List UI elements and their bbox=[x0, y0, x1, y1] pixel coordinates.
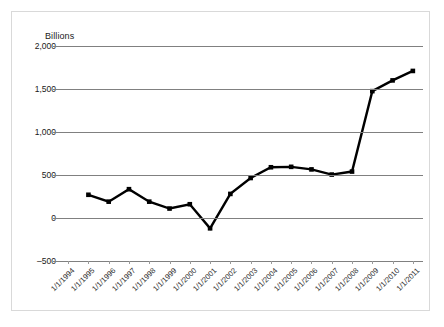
x-axis-tick-mark bbox=[170, 261, 171, 264]
x-axis-tick-mark bbox=[230, 261, 231, 264]
data-point-marker bbox=[86, 192, 91, 197]
y-axis-tick-label: 0 bbox=[12, 213, 56, 223]
gridline bbox=[58, 89, 423, 90]
x-axis-tick-mark bbox=[271, 261, 272, 264]
gridline bbox=[58, 175, 423, 176]
data-point-marker bbox=[390, 78, 395, 83]
x-axis-tick-labels: 1/1/19941/1/19951/1/19961/1/19971/1/1998… bbox=[58, 261, 423, 312]
data-point-marker bbox=[127, 187, 132, 192]
gridline bbox=[58, 132, 423, 133]
series-polyline bbox=[88, 71, 412, 228]
x-axis-tick-mark bbox=[372, 261, 373, 264]
data-point-marker bbox=[248, 176, 253, 181]
x-axis-tick-mark bbox=[149, 261, 150, 264]
gridline bbox=[58, 218, 423, 219]
data-point-marker bbox=[269, 165, 274, 170]
x-axis-tick-mark bbox=[190, 261, 191, 264]
data-point-marker bbox=[167, 206, 172, 211]
y-axis-tick-mark bbox=[53, 218, 58, 219]
x-axis-tick-mark bbox=[109, 261, 110, 264]
data-point-marker bbox=[309, 167, 314, 172]
x-axis-tick-mark bbox=[393, 261, 394, 264]
data-point-marker bbox=[350, 169, 355, 174]
y-axis-tick-mark bbox=[53, 46, 58, 47]
y-axis-tick-mark bbox=[53, 89, 58, 90]
x-axis-tick-mark bbox=[413, 261, 414, 264]
gridline bbox=[58, 46, 423, 47]
x-axis-tick-mark bbox=[129, 261, 130, 264]
data-point-marker bbox=[289, 165, 294, 170]
y-axis-tick-mark bbox=[53, 175, 58, 176]
y-axis-tick-label: 2,000 bbox=[12, 41, 56, 51]
y-axis-tick-label: 500 bbox=[12, 170, 56, 180]
x-axis-tick-mark bbox=[68, 261, 69, 264]
chart-canvas: Billions 2,0001,5001,0005000–500 1/1/199… bbox=[12, 12, 431, 312]
y-axis-tick-label: 1,000 bbox=[12, 127, 56, 137]
y-axis-tick-labels: 2,0001,5001,0005000–500 bbox=[12, 12, 56, 312]
data-point-marker bbox=[188, 202, 193, 207]
data-series-line bbox=[58, 46, 423, 261]
plot-area bbox=[58, 46, 423, 261]
data-point-marker bbox=[106, 199, 111, 204]
y-axis-tick-label: –500 bbox=[12, 256, 56, 266]
x-axis-tick-mark bbox=[352, 261, 353, 264]
data-point-marker bbox=[411, 69, 416, 74]
y-axis-tick-label: 1,500 bbox=[12, 84, 56, 94]
chart-frame: Billions 2,0001,5001,0005000–500 1/1/199… bbox=[11, 11, 430, 311]
data-point-marker bbox=[228, 192, 233, 197]
x-axis-tick-mark bbox=[88, 261, 89, 264]
x-axis-tick-mark bbox=[251, 261, 252, 264]
x-axis-tick-mark bbox=[291, 261, 292, 264]
y-axis-tick-mark bbox=[53, 132, 58, 133]
data-point-marker bbox=[208, 226, 213, 231]
x-axis-tick-mark bbox=[210, 261, 211, 264]
x-axis-tick-mark bbox=[311, 261, 312, 264]
data-point-marker bbox=[147, 199, 152, 204]
x-axis-tick-mark bbox=[332, 261, 333, 264]
